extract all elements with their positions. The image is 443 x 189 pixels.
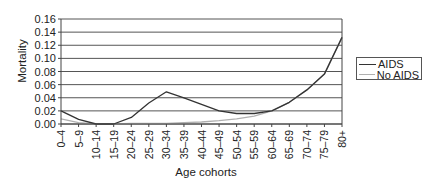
y-tick-label: 0.06 (35, 79, 56, 91)
y-axis-title: Mortality (16, 39, 28, 83)
x-tick-label: 55–59 (248, 130, 260, 159)
y-tick-label: 0.00 (35, 118, 56, 130)
chart-legend: AIDS No AIDS (356, 57, 422, 80)
x-tick-label: 15–19 (108, 130, 120, 159)
x-tick-label: 70–74 (301, 130, 313, 159)
y-tick-label: 0.10 (35, 52, 56, 64)
x-tick-label: 10–14 (90, 130, 102, 159)
x-tick-label: 45–49 (213, 130, 225, 159)
legend-item-no-aids: No AIDS (359, 70, 419, 81)
x-tick-label: 20–24 (125, 130, 137, 159)
x-tick-label: 40–44 (196, 130, 208, 159)
gridlines (61, 19, 342, 124)
line-chart: 0.000.020.040.060.080.100.120.140.16 0–4… (0, 0, 443, 189)
y-tick-label: 0.08 (35, 66, 56, 78)
legend-swatch-aids (359, 64, 376, 65)
x-tick-label: 35–39 (178, 130, 190, 159)
y-tick-label: 0.14 (35, 26, 56, 38)
y-tick-label: 0.12 (35, 39, 56, 51)
x-tick-label: 75–79 (318, 130, 330, 159)
y-tick-label: 0.16 (35, 13, 56, 25)
x-tick-label: 25–29 (143, 130, 155, 159)
x-tick-label: 80+ (336, 130, 348, 148)
legend-swatch-no-aids (359, 74, 375, 75)
x-tick-label: 5–9 (73, 130, 85, 148)
x-tick-label: 50–54 (231, 130, 243, 159)
x-axis-title: Age cohorts (175, 166, 237, 178)
x-axis-ticks: 0–45–910–1415–1920–2425–2930–3435–3940–4… (55, 124, 348, 159)
x-tick-label: 65–69 (283, 130, 295, 159)
x-tick-label: 60–64 (266, 130, 278, 159)
legend-label: No AIDS (377, 70, 419, 81)
y-axis-ticks: 0.000.020.040.060.080.100.120.140.16 (35, 13, 61, 130)
legend-label: AIDS (378, 59, 404, 70)
y-tick-label: 0.02 (35, 105, 56, 117)
legend-item-aids: AIDS (359, 59, 419, 70)
x-tick-label: 0–4 (55, 130, 67, 148)
x-tick-label: 30–34 (160, 130, 172, 159)
y-tick-label: 0.04 (35, 92, 56, 104)
